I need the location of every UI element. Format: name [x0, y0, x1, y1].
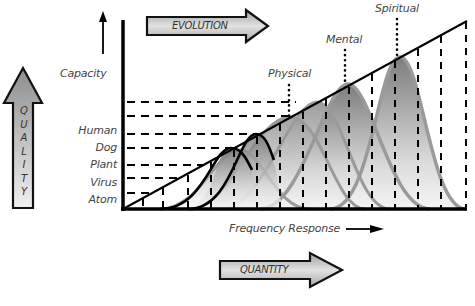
level-label-human: Human	[57, 124, 117, 137]
quantity-label: QUANTITY	[240, 264, 288, 275]
quality-letter: Q	[18, 104, 30, 118]
frequency-arrow-icon	[346, 225, 384, 233]
gray-peaks	[160, 57, 466, 209]
quality-letter: Y	[18, 185, 30, 199]
y-axis-label: Capacity	[60, 67, 106, 80]
evolution-label: EVOLUTION	[172, 20, 228, 31]
peak-label-mental: Mental	[326, 33, 362, 46]
quality-letter: A	[18, 131, 30, 145]
quality-letter: T	[18, 172, 30, 186]
level-label-plant: Plant	[57, 158, 117, 171]
level-label-atom: Atom	[57, 193, 117, 206]
quality-letter: I	[18, 158, 30, 172]
x-axis-label: Frequency Response	[229, 222, 340, 235]
quality-letter: U	[18, 118, 30, 132]
black-curves	[160, 134, 282, 209]
quality-letter: L	[18, 145, 30, 159]
peak-label-spiritual: Spiritual	[375, 2, 419, 15]
level-label-dog: Dog	[57, 141, 117, 154]
level-label-virus: Virus	[57, 176, 117, 189]
peak-label-physical: Physical	[268, 67, 311, 80]
capacity-arrow-icon	[99, 11, 107, 54]
quality-label: Q U A L I T Y	[18, 104, 30, 199]
